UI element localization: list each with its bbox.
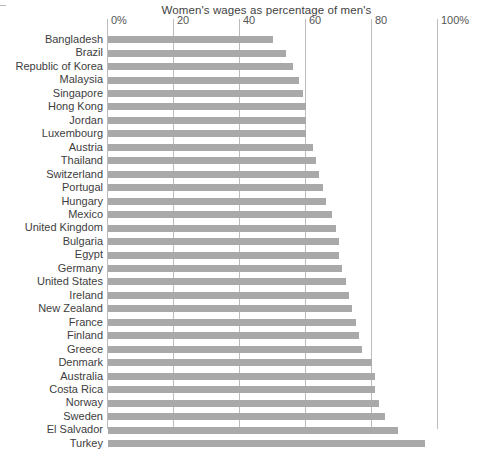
chart-row: New Zealand: [0, 302, 489, 315]
category-label: United Kingdom: [25, 221, 103, 234]
category-label: Malaysia: [60, 73, 103, 86]
bar: [108, 319, 356, 326]
bar: [108, 332, 359, 339]
category-label: Thailand: [61, 154, 103, 167]
bar-rows: BangladeshBrazilRepublic of KoreaMalaysi…: [0, 33, 489, 429]
category-label: Ireland: [69, 289, 103, 302]
category-label: Brazil: [75, 46, 103, 59]
chart-row: United States: [0, 275, 489, 288]
category-label: Hungary: [61, 195, 103, 208]
category-label: Germany: [58, 262, 103, 275]
category-label: Republic of Korea: [16, 60, 103, 73]
chart-row: Malaysia: [0, 73, 489, 86]
bar: [108, 359, 372, 366]
category-label: Bulgaria: [63, 235, 103, 248]
bar: [108, 305, 352, 312]
category-label: Mexico: [68, 208, 103, 221]
bar: [108, 211, 332, 218]
category-label: Turkey: [70, 437, 103, 450]
x-axis-tick-label-20: 20: [173, 14, 189, 26]
chart-row: Sweden: [0, 410, 489, 423]
chart-row: Egypt: [0, 248, 489, 261]
category-label: Egypt: [75, 248, 103, 261]
chart-row: Thailand: [0, 154, 489, 167]
chart-row: Austria: [0, 141, 489, 154]
bar: [108, 278, 346, 285]
chart-row: Bangladesh: [0, 33, 489, 46]
category-label: Hong Kong: [48, 100, 103, 113]
bar: [108, 225, 336, 232]
chart-row: Turkey: [0, 437, 489, 450]
category-label: Luxembourg: [42, 127, 103, 140]
bar: [108, 77, 299, 84]
chart-row: Bulgaria: [0, 235, 489, 248]
category-label: Denmark: [58, 356, 103, 369]
category-label: Sweden: [63, 410, 103, 423]
x-axis-tick-label-40: 40: [239, 14, 255, 26]
bar: [108, 63, 293, 70]
category-label: Costa Rica: [49, 383, 103, 396]
category-label: New Zealand: [38, 302, 103, 315]
bar: [108, 427, 398, 434]
bar: [108, 117, 306, 124]
bar: [108, 184, 323, 191]
chart-row: Mexico: [0, 208, 489, 221]
x-axis-tick-label-80: 80: [371, 14, 387, 26]
x-axis-tick-label-0: 0%: [107, 14, 127, 26]
bar: [108, 157, 316, 164]
bar: [108, 265, 342, 272]
category-label: Finland: [67, 329, 103, 342]
chart-row: Luxembourg: [0, 127, 489, 140]
category-label: Jordan: [69, 114, 103, 127]
x-axis-tick-label-60: 60: [305, 14, 321, 26]
bar: [108, 50, 286, 57]
bar: [108, 36, 273, 43]
chart-row: France: [0, 316, 489, 329]
category-label: United States: [37, 275, 103, 288]
bar: [108, 413, 385, 420]
category-label: France: [69, 316, 103, 329]
bar: [108, 400, 379, 407]
chart-row: United Kingdom: [0, 221, 489, 234]
chart-row: Switzerland: [0, 168, 489, 181]
chart-row: Greece: [0, 343, 489, 356]
chart-row: Hong Kong: [0, 100, 489, 113]
chart-row: Singapore: [0, 87, 489, 100]
chart-row: El Salvador: [0, 423, 489, 436]
chart-row: Germany: [0, 262, 489, 275]
bar: [108, 440, 425, 447]
chart-row: Costa Rica: [0, 383, 489, 396]
category-label: Austria: [69, 141, 103, 154]
chart-row: Brazil: [0, 46, 489, 59]
bar: [108, 292, 349, 299]
bar: [108, 130, 306, 137]
category-label: Australia: [60, 370, 103, 383]
chart-row: Australia: [0, 370, 489, 383]
bar: [108, 373, 375, 380]
bar: [108, 171, 319, 178]
chart-row: Denmark: [0, 356, 489, 369]
bar: [108, 90, 303, 97]
category-label: Switzerland: [46, 168, 103, 181]
bar: [108, 144, 313, 151]
chart-row: Ireland: [0, 289, 489, 302]
category-label: Singapore: [53, 87, 103, 100]
bar: [108, 252, 339, 259]
chart-row: Portugal: [0, 181, 489, 194]
chart-title-text: Women's wages as percentage of men's: [162, 4, 372, 16]
bar: [108, 386, 375, 393]
category-label: El Salvador: [47, 423, 103, 436]
chart-row: Finland: [0, 329, 489, 342]
chart-row: Republic of Korea: [0, 60, 489, 73]
bar: [108, 103, 306, 110]
chart-row: Norway: [0, 396, 489, 409]
chart-row: Hungary: [0, 195, 489, 208]
category-label: Norway: [66, 396, 103, 409]
x-axis-tick-label-100: 100%: [437, 14, 469, 26]
bar: [108, 198, 326, 205]
category-label: Greece: [67, 343, 103, 356]
category-label: Portugal: [62, 181, 103, 194]
category-label: Bangladesh: [45, 33, 103, 46]
bar: [108, 346, 362, 353]
